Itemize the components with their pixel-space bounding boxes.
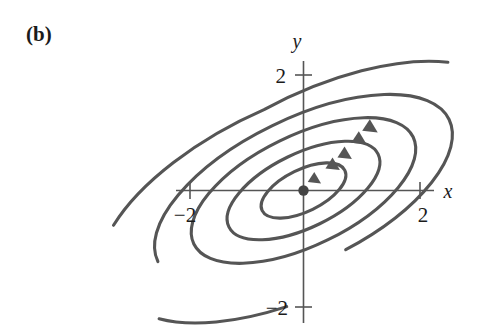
trajectory-group (97, 28, 481, 335)
flow-arrow-icon-3 (337, 147, 355, 165)
y-axis-label: y (291, 30, 302, 53)
phase-portrait-plot: y x 2 −2 −2 2 (0, 0, 481, 335)
x-axis-label: x (443, 180, 453, 202)
flow-arrow-icon-4 (351, 131, 370, 150)
y-tick-label-minus2: −2 (266, 296, 288, 320)
flow-arrow-icon-1 (308, 172, 325, 189)
x-tick-label-plus2: 2 (418, 203, 429, 227)
flow-arrow-icon-5 (362, 119, 381, 138)
equilibrium-point-dot (298, 185, 308, 195)
y-tick-label-plus2: 2 (276, 64, 287, 88)
x-tick-label-minus2: −2 (174, 203, 196, 227)
phase-portrait-figure: (b) (0, 0, 481, 335)
